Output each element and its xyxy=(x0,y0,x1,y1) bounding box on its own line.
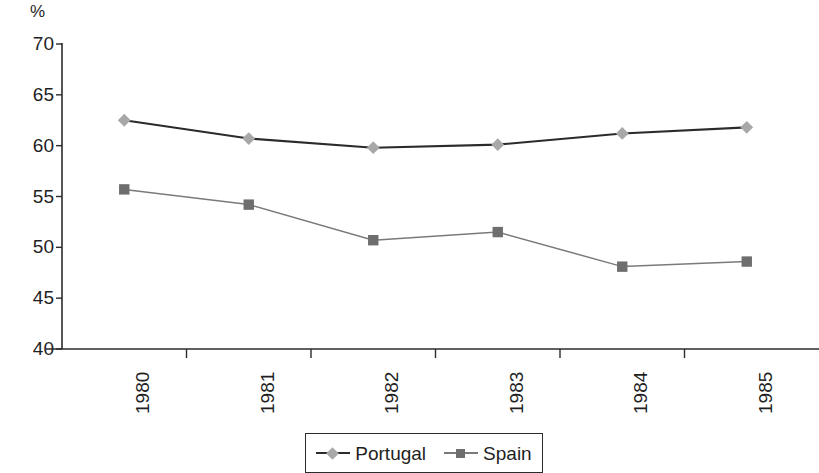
x-axis-tick-label: 1980 xyxy=(133,372,152,414)
legend-marker-diamond-icon xyxy=(326,447,339,460)
legend-swatch-portugal-icon xyxy=(316,446,350,460)
x-axis-tick-label: 1983 xyxy=(507,372,526,414)
x-axis-tick-label: 1985 xyxy=(756,372,775,414)
legend-swatch-spain-icon xyxy=(444,446,478,460)
legend-entry-spain: Spain xyxy=(444,444,532,463)
legend-label: Portugal xyxy=(355,444,426,463)
x-axis-tick-label: 1984 xyxy=(631,372,650,414)
legend-label: Spain xyxy=(483,444,532,463)
x-axis-tick-label: 1981 xyxy=(258,372,277,414)
chart-legend: PortugalSpain xyxy=(305,433,543,473)
legend-marker-square-icon xyxy=(456,449,465,458)
x-axis-tick-label: 1982 xyxy=(382,372,401,414)
legend-entry-portugal: Portugal xyxy=(316,444,426,463)
